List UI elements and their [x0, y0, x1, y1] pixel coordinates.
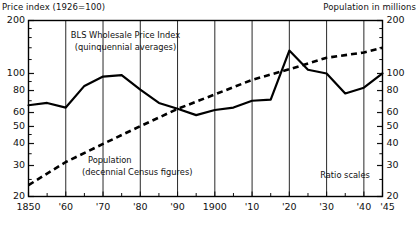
y-label-left-40: 40 — [0, 137, 25, 148]
y-label-left-30: 30 — [0, 159, 25, 170]
x-label-90: '90 — [160, 201, 196, 212]
x-label-1850: 1850 — [11, 201, 47, 212]
chart-canvas: Price index (1926=100) Population in mil… — [0, 0, 418, 228]
y-label-right-60: 60 — [387, 106, 418, 117]
y-label-right-20: 20 — [387, 190, 418, 201]
annotation-bls-line2: (quinquennial averages) — [43, 42, 208, 54]
y-label-left-20: 20 — [0, 190, 25, 201]
x-label-80: '80 — [122, 201, 158, 212]
y-label-right-80: 80 — [387, 84, 418, 95]
x-label-1900: 1900 — [197, 201, 233, 212]
x-label-70: '70 — [85, 201, 121, 212]
annotation-population: Population (decennial Census figures) — [82, 155, 232, 178]
x-label-10: '10 — [234, 201, 270, 212]
annotation-population-line2: (decennial Census figures) — [82, 167, 232, 179]
y-label-right-200: 200 — [387, 14, 418, 25]
annotation-ratio-scales: Ratio scales — [305, 170, 385, 180]
y-axis-left-ticks — [29, 21, 35, 197]
annotation-bls: BLS Wholesale Price Index (quinquennial … — [43, 30, 208, 53]
x-label-20: '20 — [271, 201, 307, 212]
annotation-population-line1: Population — [82, 155, 232, 167]
y-label-left-50: 50 — [0, 120, 25, 131]
y-label-right-100: 100 — [387, 67, 418, 78]
series-bls-line — [29, 51, 383, 116]
x-label-60: '60 — [48, 201, 84, 212]
y-label-left-100: 100 — [0, 67, 25, 78]
y-label-left-80: 80 — [0, 84, 25, 95]
y-label-left-60: 60 — [0, 106, 25, 117]
y-label-right-30: 30 — [387, 159, 418, 170]
y-label-right-50: 50 — [387, 120, 418, 131]
x-label-30: '30 — [309, 201, 345, 212]
x-label-45: '45 — [370, 201, 406, 212]
x-axis-ticks — [29, 192, 383, 197]
annotation-bls-line1: BLS Wholesale Price Index — [43, 30, 208, 42]
y-label-right-40: 40 — [387, 137, 418, 148]
y-label-left-200: 200 — [0, 14, 25, 25]
